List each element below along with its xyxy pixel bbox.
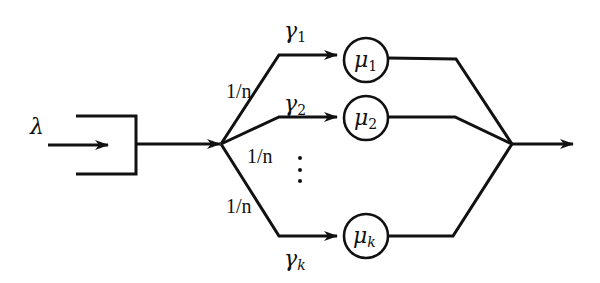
split-probability-k: 1/n <box>226 195 252 217</box>
split-probability-1: 1/n <box>226 80 252 102</box>
route-rate-1: γ1 <box>284 18 306 45</box>
arrival-rate-label: λ <box>29 114 44 139</box>
server-1-output-edge <box>388 58 512 144</box>
ellipsis-dot <box>298 168 302 172</box>
server-1-node: μ1 <box>344 38 388 82</box>
route-rate-k: γk <box>284 246 306 273</box>
ellipsis-dot <box>298 156 302 160</box>
branch-2-edge <box>221 117 337 144</box>
server-k-node: μk <box>344 214 388 258</box>
server-2-node: μ2 <box>344 96 388 140</box>
server-k-output-edge <box>388 144 512 236</box>
split-probability-2: 1/n <box>247 145 273 167</box>
route-rate-2: γ2 <box>284 91 306 118</box>
ellipsis-dot <box>298 179 302 183</box>
server-2-output-edge <box>388 117 512 144</box>
queueing-network-diagram: λ 1/n 1/n 1/n γ1 γ2 γk μ1 μ2 μk <box>0 0 600 283</box>
branch-k-edge <box>221 144 337 236</box>
